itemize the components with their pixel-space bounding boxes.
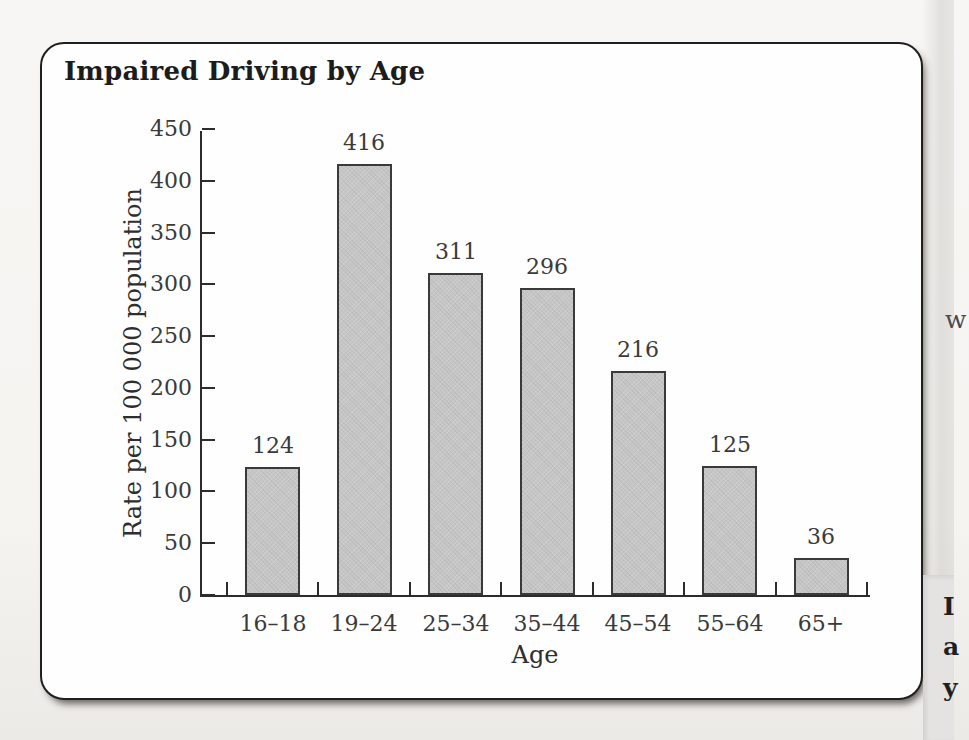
y-axis-tick <box>202 335 215 337</box>
x-axis-tick <box>775 582 777 595</box>
x-category-label: 25–34 <box>408 611 504 636</box>
x-axis-tick <box>683 582 685 595</box>
x-category-label: 45–54 <box>590 611 686 636</box>
x-category-label: 16–18 <box>225 611 321 636</box>
bar <box>794 558 849 595</box>
y-axis-tick-label: 250 <box>116 323 192 348</box>
bar-value-label: 124 <box>228 433 318 458</box>
x-axis-tick <box>592 582 594 595</box>
y-axis-tick <box>202 232 215 234</box>
y-axis-tick-label: 0 <box>116 582 192 607</box>
y-axis-tick <box>202 542 215 544</box>
chart-title: Impaired Driving by Age <box>64 56 425 86</box>
bar <box>337 164 392 595</box>
bar-value-label: 216 <box>593 337 683 362</box>
clipped-panel-letter: a <box>943 632 969 661</box>
bar-value-label: 125 <box>685 432 775 457</box>
x-category-label: 35–44 <box>499 611 595 636</box>
y-axis-tick <box>202 180 215 182</box>
y-axis-tick <box>202 283 215 285</box>
bar <box>428 273 483 595</box>
x-axis-tick <box>500 582 502 595</box>
bar-value-label: 36 <box>776 524 866 549</box>
y-axis-tick-label: 400 <box>116 168 192 193</box>
bar <box>702 466 757 595</box>
bar-value-label: 416 <box>319 130 409 155</box>
x-axis-tick <box>226 582 228 595</box>
clipped-margin-text: w <box>945 305 966 334</box>
x-axis-title: Age <box>475 641 595 669</box>
bar-value-label: 296 <box>502 254 592 279</box>
x-category-label: 19–24 <box>316 611 412 636</box>
y-axis-tick <box>202 128 215 130</box>
y-axis-tick-label: 350 <box>116 220 192 245</box>
y-axis-tick-label: 50 <box>116 530 192 555</box>
clipped-panel-letter: I <box>943 592 969 621</box>
x-axis-tick <box>317 582 319 595</box>
margin-note-panel: I a y <box>923 575 954 740</box>
y-axis-tick <box>202 490 215 492</box>
y-axis-tick-label: 300 <box>116 271 192 296</box>
y-axis-tick <box>202 439 215 441</box>
y-axis-tick-label: 450 <box>116 116 192 141</box>
x-category-label: 55–64 <box>682 611 778 636</box>
y-axis-tick-label: 200 <box>116 375 192 400</box>
clipped-panel-letter: y <box>943 673 969 702</box>
x-category-label: 65+ <box>773 611 869 636</box>
y-axis-line <box>200 131 202 597</box>
y-axis-tick <box>202 387 215 389</box>
y-axis-tick-label: 100 <box>116 478 192 503</box>
y-axis-tick-label: 150 <box>116 427 192 452</box>
x-axis-tick <box>409 582 411 595</box>
x-axis-tick <box>866 582 868 595</box>
bar-value-label: 311 <box>411 239 501 264</box>
bar <box>245 467 300 595</box>
x-axis-line <box>200 595 870 597</box>
bar <box>520 288 575 595</box>
bar <box>611 371 666 595</box>
